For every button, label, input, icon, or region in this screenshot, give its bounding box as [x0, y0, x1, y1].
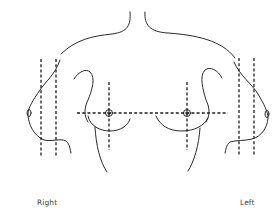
frontal-right-breast-axilla-curve	[74, 70, 93, 122]
neck-shoulder-right-side	[61, 12, 130, 54]
label-left: Left	[240, 198, 255, 207]
frontal-right-breast	[74, 70, 130, 172]
frontal-right-breast-lower-contour	[88, 116, 130, 131]
label-right: Right	[37, 198, 57, 207]
left-profile-view	[225, 58, 269, 156]
left-profile-contour	[225, 62, 268, 153]
frontal-left-torso-line	[188, 128, 200, 171]
torso-outline	[61, 12, 235, 58]
frontal-left-breast-axilla-curve	[202, 68, 222, 122]
neck-shoulder-left-side	[145, 12, 235, 58]
right-profile-view	[27, 59, 71, 156]
right-profile-contour	[28, 60, 71, 153]
breast-diagram: Right Left	[0, 0, 277, 219]
frontal-right-torso-line	[95, 127, 107, 172]
frontal-left-breast	[156, 68, 222, 171]
diagram-canvas	[0, 0, 277, 219]
